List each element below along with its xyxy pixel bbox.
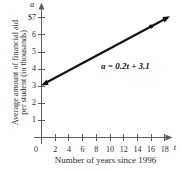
x-axis-variable-label: t bbox=[174, 142, 177, 152]
x-axis-tick-labels: 0 2 4 6 8 10 12 14 16 18 bbox=[34, 145, 169, 154]
x-tick-label-6: 6 bbox=[81, 145, 85, 154]
y-tick-label-2: 2 bbox=[32, 98, 36, 107]
x-axis-arrowhead bbox=[166, 135, 173, 141]
y-tick-label-5: 5 bbox=[32, 47, 36, 56]
y-axis-tick-labels: 1 2 3 4 5 6 $7 bbox=[28, 13, 36, 125]
x-tick-label-12: 12 bbox=[120, 145, 128, 154]
x-tick-label-14: 14 bbox=[133, 145, 141, 154]
line-chart-plot: 1 2 3 4 5 6 $7 a 0 2 4 6 8 bbox=[0, 0, 181, 171]
x-tick-label-10: 10 bbox=[106, 145, 114, 154]
trend-line bbox=[45, 19, 167, 84]
x-tick-label-0: 0 bbox=[34, 145, 38, 154]
trend-line-end-arrowhead bbox=[162, 16, 170, 22]
x-tick-label-8: 8 bbox=[94, 145, 98, 154]
x-tick-label-2: 2 bbox=[53, 145, 57, 154]
data-point-marker bbox=[149, 24, 153, 28]
chart-figure: 1 2 3 4 5 6 $7 a 0 2 4 6 8 bbox=[0, 0, 181, 171]
y-tick-label-3: 3 bbox=[32, 81, 36, 90]
trend-line-start-arrowhead bbox=[41, 80, 49, 86]
x-tick-label-18: 18 bbox=[161, 145, 169, 154]
y-tick-label-7: $7 bbox=[28, 13, 36, 22]
y-tick-label-6: 6 bbox=[32, 30, 36, 39]
y-tick-label-4: 4 bbox=[32, 64, 36, 73]
y-tick-label-1: 1 bbox=[32, 115, 36, 124]
y-axis-variable-label: a bbox=[30, 0, 34, 9]
x-tick-label-4: 4 bbox=[67, 145, 71, 154]
x-tick-label-16: 16 bbox=[147, 145, 155, 154]
equation-annotation: a = 0.2t + 3.1 bbox=[101, 61, 150, 71]
y-axis-arrowhead bbox=[39, 3, 45, 10]
